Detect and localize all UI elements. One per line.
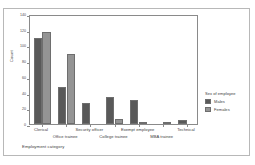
bar (82, 103, 90, 124)
legend-swatch (205, 107, 211, 112)
x-axis-category-label: Clerical (34, 128, 48, 132)
x-axis-tick (163, 124, 164, 127)
bar (115, 119, 123, 124)
legend-item: Males (205, 99, 251, 104)
plot-inner: 020406080100120140 (30, 16, 197, 124)
y-axis-tick-label: 120 (20, 30, 26, 34)
x-axis-tick (66, 124, 67, 127)
y-axis-tick-label: 140 (20, 14, 26, 18)
bar (139, 122, 147, 124)
x-axis-tick (115, 124, 116, 127)
legend-item-label: Females (214, 107, 230, 112)
chart-figure: Count Employment category 02040608010012… (0, 0, 255, 165)
legend: Sex of employee MalesFemales (205, 91, 251, 114)
y-axis-tick (27, 110, 30, 111)
legend-item: Females (205, 107, 251, 112)
y-axis-tick-label: 60 (22, 77, 26, 81)
y-axis-tick (27, 47, 30, 48)
x-axis-category-label: MBA trainee (150, 135, 173, 139)
y-axis-tick (27, 95, 30, 96)
plot-area: 020406080100120140 (29, 15, 198, 125)
y-axis-tick-label: 40 (22, 93, 26, 97)
x-axis-category-label: Exempt employee (121, 128, 155, 132)
y-axis-tick (27, 126, 30, 127)
y-axis-tick-label: 0 (24, 124, 26, 128)
y-axis-tick (27, 79, 30, 80)
y-axis-tick (27, 16, 30, 17)
bar (42, 32, 50, 124)
bar (106, 97, 114, 124)
bar (67, 54, 75, 124)
bar (34, 38, 42, 124)
x-axis-category-label: Technical (177, 128, 195, 132)
x-axis-category-label: Security officer (75, 128, 103, 132)
bar (130, 100, 138, 124)
legend-entries: MalesFemales (205, 99, 251, 112)
legend-swatch (205, 99, 211, 104)
bar (163, 122, 171, 124)
bar (178, 120, 186, 124)
x-axis-category-label: College trainee (99, 135, 127, 139)
x-axis-title: Employment category (22, 144, 64, 149)
legend-item-label: Males (214, 99, 225, 104)
bar (58, 87, 66, 124)
y-axis-title: Count (9, 50, 14, 62)
y-axis-tick-label: 20 (22, 108, 26, 112)
y-axis-tick (27, 32, 30, 33)
legend-title: Sex of employee (205, 91, 251, 96)
y-axis-tick (27, 63, 30, 64)
x-axis-category-label: Office trainee (53, 135, 78, 139)
y-axis-tick-label: 80 (22, 61, 26, 65)
y-axis-tick-label: 100 (20, 46, 26, 50)
